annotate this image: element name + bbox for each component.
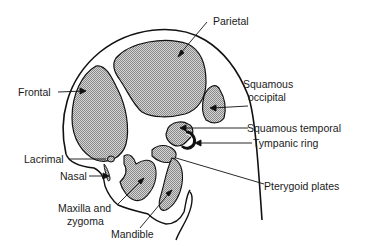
label-nasal: Nasal — [60, 171, 87, 182]
label-frontal: Frontal — [18, 87, 51, 98]
label-squamous-occipital-1: Squamous — [243, 79, 293, 90]
label-mandible: Mandible — [111, 229, 154, 240]
label-tympanic-ring: Tympanic ring — [253, 138, 318, 149]
mandible-outline — [176, 192, 192, 240]
label-squamous-occipital-2: occipital — [248, 92, 286, 103]
frontal-bone — [72, 66, 128, 161]
skull-diagram: Parietal Frontal Squamous occipital Squa… — [0, 0, 369, 246]
label-maxilla-zygoma-2: zygoma — [67, 216, 104, 227]
label-parietal: Parietal — [213, 16, 249, 27]
mandible-bone — [159, 158, 182, 210]
squamous-occipital-bone — [203, 86, 226, 123]
label-lacrimal: Lacrimal — [24, 154, 64, 165]
maxilla-zygoma-bone — [120, 155, 156, 201]
label-pterygoid-plates: Pterygoid plates — [264, 181, 339, 192]
parietal-bone — [114, 40, 206, 116]
label-maxilla-zygoma-1: Maxilla and — [58, 203, 111, 214]
label-squamous-temporal: Squamous temporal — [247, 123, 341, 134]
lacrimal-bone — [108, 156, 115, 162]
